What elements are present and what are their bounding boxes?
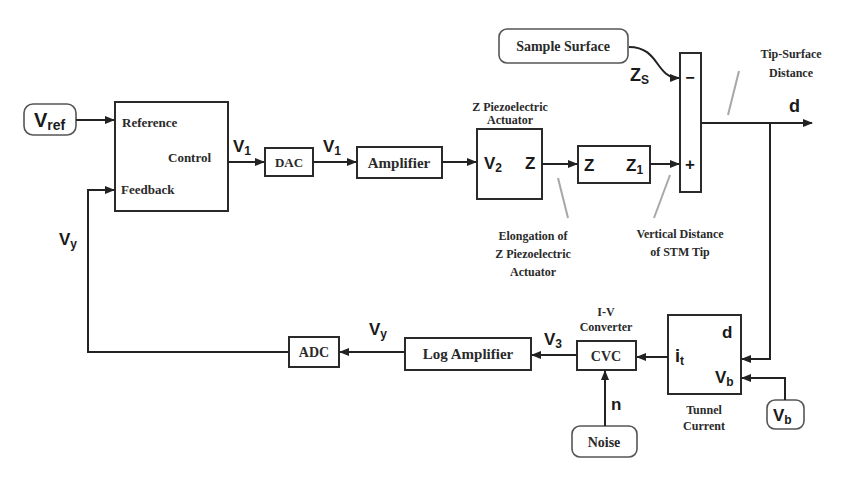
tip-displacement-block: Z Z1 <box>578 146 650 183</box>
log-amplifier-block: Log Amplifier <box>405 338 531 370</box>
feedback-port-label: Feedback <box>121 182 175 197</box>
zs-signal-label: ZS <box>630 65 649 87</box>
vertical-distance-annotation-line2: of STM Tip <box>650 245 710 259</box>
amplifier-block: Amplifier <box>357 147 442 178</box>
n-signal-label: n <box>611 395 621 414</box>
dac-block: DAC <box>265 148 313 176</box>
piezo-title-line2: Actuator <box>487 113 534 127</box>
sample-surface-input: Sample Surface <box>499 29 628 63</box>
tunnel-current-block: d it Vb <box>668 315 741 394</box>
vb-input: Vb <box>767 400 804 429</box>
plus-sign: + <box>685 155 695 174</box>
elongation-annotation-line2: Z Piezoelectric <box>495 247 571 261</box>
v1-signal-label-b: V1 <box>323 137 341 158</box>
svg-text:DAC: DAC <box>275 155 303 170</box>
svg-text:Noise: Noise <box>588 435 621 450</box>
minus-sign: − <box>685 69 694 86</box>
svg-text:Z: Z <box>525 154 535 173</box>
cvc-block: CVC <box>577 341 636 370</box>
tunnel-title-line1: Tunnel <box>686 403 722 417</box>
vertical-distance-pointer <box>654 175 670 218</box>
iv-converter-title-line1: I-V <box>597 305 615 319</box>
elongation-pointer <box>558 178 568 218</box>
stm-feedback-block-diagram: Vref Reference Control Feedback V1 DAC V… <box>0 0 848 481</box>
svg-text:ADC: ADC <box>299 345 329 360</box>
piezo-title-line1: Z Piezoelectric <box>472 100 548 114</box>
tunnel-title-line2: Current <box>683 419 725 433</box>
vy-signal-label-left: Vy <box>59 230 77 251</box>
vy-signal-label-bottom: Vy <box>369 320 387 341</box>
v3-signal-label: V3 <box>544 330 562 351</box>
z-piezo-actuator-block: V2 Z <box>477 129 542 199</box>
svg-text:Sample Surface: Sample Surface <box>516 39 610 54</box>
summing-junction: − + <box>680 53 701 192</box>
svg-text:Log Amplifier: Log Amplifier <box>423 346 514 362</box>
control-port-label: Control <box>168 150 211 165</box>
svg-text:Z: Z <box>584 156 594 175</box>
vref-input: Vref <box>24 104 76 135</box>
feedback-loop-arrow <box>88 190 289 352</box>
svg-text:Amplifier: Amplifier <box>368 155 431 171</box>
tip-surface-annotation-line1: Tip-Surface <box>760 47 822 61</box>
tip-surface-annotation-line2: Distance <box>769 66 814 80</box>
controller-block: Reference Control Feedback <box>115 102 228 211</box>
tip-surface-pointer <box>728 71 739 115</box>
svg-text:d: d <box>722 323 732 342</box>
reference-port-label: Reference <box>122 115 178 130</box>
vertical-distance-annotation-line1: Vertical Distance <box>636 227 724 241</box>
d-signal-label: d <box>789 96 800 116</box>
iv-converter-title-line2: Converter <box>580 320 633 334</box>
d-to-tunnel-arrow <box>742 123 770 359</box>
noise-input: Noise <box>572 426 637 457</box>
adc-block: ADC <box>289 337 339 367</box>
elongation-annotation-line1: Elongation of <box>498 229 568 243</box>
svg-text:CVC: CVC <box>591 349 621 364</box>
elongation-annotation-line3: Actuator <box>510 265 557 279</box>
v1-signal-label-a: V1 <box>233 137 251 158</box>
vb-to-tunnel-arrow <box>742 378 785 400</box>
